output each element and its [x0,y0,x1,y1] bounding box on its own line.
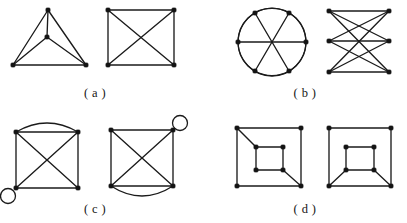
graph-edge [47,37,86,65]
graph-edge [329,170,346,186]
graph-vertex [327,184,331,188]
graph-canvas-k33-on-a-circle [224,0,322,92]
graph-c-right [93,104,197,210]
graph-vertex [287,11,291,15]
graph-edge [255,71,289,76]
graph-b-left [224,0,322,92]
graph-vertex [253,11,257,15]
graph-canvas-k4-square-with-diagonals [92,0,192,90]
graph-vertex [389,126,393,130]
graph-vertex [254,145,258,149]
panel-label-a: ( a ) [65,86,125,101]
graph-d-left [221,110,321,206]
graph-vertex [327,39,331,43]
graph-vertex [281,168,285,172]
panel-label-b: ( b ) [275,86,335,101]
graph-vertex [389,184,393,188]
graph-vertex [171,128,175,132]
graph-edge [13,37,47,65]
graph-vertex [327,70,331,74]
graph-vertex [344,145,348,149]
graph-vertex [387,70,391,74]
panel-label-c: ( c ) [65,202,125,217]
graph-vertex [235,126,239,130]
graph-vertex [287,69,291,73]
graph-vertex [106,63,110,67]
graph-vertex [236,40,240,44]
graph-edge [255,8,289,13]
graph-vertex [344,168,348,172]
graph-vertex [106,8,110,12]
graph-vertex [14,130,18,134]
graph-vertex [172,8,176,12]
graph-edge [238,42,255,71]
graph-b-right [313,0,407,92]
graph-vertex [372,168,376,172]
graph-canvas-multigraph-loop-bottom-left [0,108,102,212]
graph-vertex [235,184,239,188]
graph-vertex [45,35,49,39]
graph-d-right [313,110,407,206]
graph-multi-edge [16,123,78,132]
graph-edge [283,170,301,186]
graph-vertex [171,184,175,188]
graph-edge [289,42,306,71]
graph-vertex [76,130,80,134]
graph-vertex [299,184,303,188]
graph-vertex [109,184,113,188]
panel-label-d: ( d ) [275,202,335,217]
graph-vertex [372,145,376,149]
graph-edge [48,10,86,65]
graph-figure: ( a )( b )( c )( d ) [0,0,407,223]
graph-canvas-multigraph-loop-top-right [93,104,197,210]
graph-vertex [46,8,50,12]
graph-a-right [92,0,192,90]
graph-vertex [299,126,303,130]
graph-vertex [387,9,391,13]
graph-edge [238,13,255,42]
graph-vertex [387,39,391,43]
graph-vertex [281,145,285,149]
graph-vertex [253,69,257,73]
graph-vertex [109,128,113,132]
graph-vertex [11,63,15,67]
graph-vertex [254,168,258,172]
graph-vertex [172,63,176,67]
graph-vertex [304,40,308,44]
graph-edge [237,128,256,147]
graph-edge [13,10,48,65]
graph-vertex [84,63,88,67]
graph-edge [374,170,391,186]
graph-vertex [14,186,18,190]
graph-loop [1,189,16,204]
graph-canvas-nested-squares-diagonal-spokes [221,110,321,206]
graph-edge [289,13,306,42]
graph-canvas-nested-squares-bottom-spokes [313,110,407,206]
graph-vertex [76,186,80,190]
graph-c-left [0,108,102,212]
graph-vertex [327,126,331,130]
graph-vertex [327,9,331,13]
graph-canvas-k33-two-columns [313,0,407,92]
graph-multi-edge [111,186,173,196]
graph-edge [47,10,48,37]
